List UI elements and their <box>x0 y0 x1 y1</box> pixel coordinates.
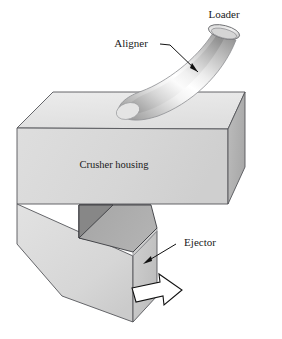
ejector-label: Ejector <box>184 236 216 248</box>
crusher-diagram-figure: Loader Aligner Crusher housing Ejector <box>0 0 282 339</box>
loader-label: Loader <box>208 8 239 20</box>
crusher-housing-label: Crusher housing <box>79 159 149 170</box>
aligner-label: Aligner <box>114 37 148 49</box>
diagram-canvas: Loader Aligner Crusher housing Ejector <box>0 0 282 339</box>
